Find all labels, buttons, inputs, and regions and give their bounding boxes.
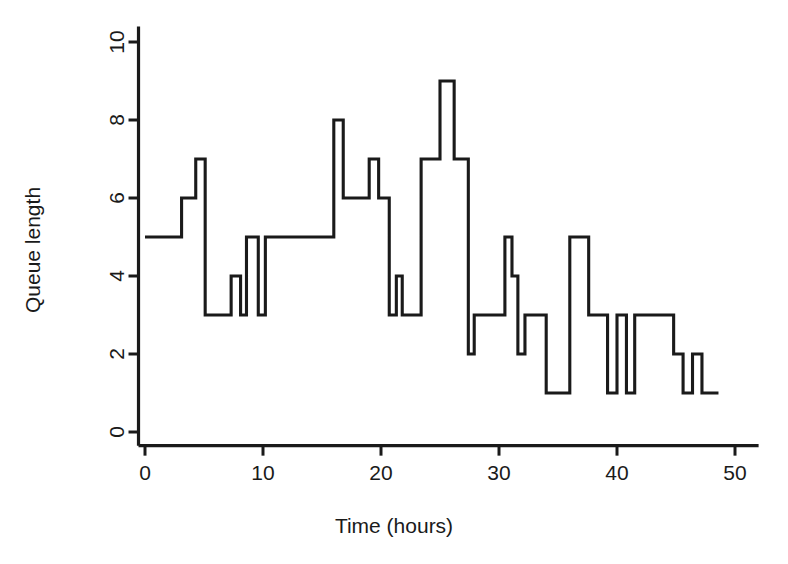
x-tick-label-50: 50 xyxy=(723,461,746,484)
x-tick-label-20: 20 xyxy=(369,461,392,484)
y-axis-title: Queue length xyxy=(21,187,44,313)
x-tick-label-10: 10 xyxy=(251,461,274,484)
x-tick-label-30: 30 xyxy=(487,461,510,484)
x-tick-label-0: 0 xyxy=(139,461,151,484)
y-tick-label-8: 8 xyxy=(105,114,128,126)
y-tick-label-0: 0 xyxy=(105,426,128,438)
chart-figure: 0246810 01020304050 Time (hours) Queue l… xyxy=(0,0,788,564)
x-tick-label-40: 40 xyxy=(605,461,628,484)
queue-length-step-chart: 0246810 01020304050 Time (hours) Queue l… xyxy=(0,0,788,564)
y-tick-label-10: 10 xyxy=(105,30,128,53)
y-tick-label-4: 4 xyxy=(105,270,128,282)
x-axis-title: Time (hours) xyxy=(335,514,453,537)
y-tick-label-2: 2 xyxy=(105,348,128,360)
y-tick-label-6: 6 xyxy=(105,192,128,204)
